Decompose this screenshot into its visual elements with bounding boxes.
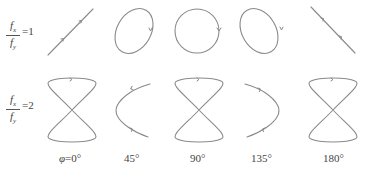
figure-r1-phase45-ellipse [107,2,160,61]
lissajous-figures [0,0,365,173]
phase-label-0: φ=0° [59,152,81,164]
figure-r2-phase135-parabola [245,84,279,137]
figure-r2-phase0-figure-eight [48,78,96,142]
figure-r2-phase180-figure-eight [309,78,357,142]
phase-label-90: 90° [190,152,205,164]
figure-r2-phase45-parabola [116,84,150,137]
phase-label-135: 135° [251,152,272,164]
figure-r1-phase90-circle [175,9,221,53]
figure-r1-phase0-line [48,9,93,55]
figure-r2-phase90-figure-eight [175,78,223,142]
phase-label-180: 180° [323,152,344,164]
phase-label-45: 45° [124,152,139,164]
figure-r1-phase180-line [311,7,355,53]
figure-r1-phase135-ellipse [232,2,285,61]
